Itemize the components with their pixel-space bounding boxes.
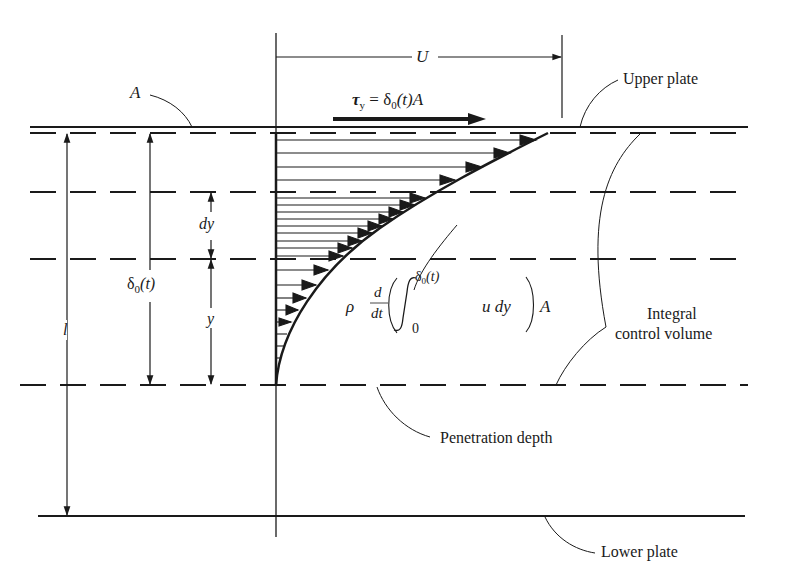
gap-l-label: l bbox=[63, 320, 67, 340]
shear-eq-rest: (t)A bbox=[397, 90, 423, 109]
upper-plate-leader-line bbox=[580, 80, 618, 127]
penetration-depth-leader-line bbox=[377, 387, 430, 437]
delta-rest: (t) bbox=[140, 275, 155, 292]
integral-cv-label-line2: control volume bbox=[615, 326, 712, 342]
integral-lower-limit: 0 bbox=[412, 322, 419, 336]
area-label: A bbox=[130, 84, 140, 101]
integral-upper-rest: (t) bbox=[426, 269, 439, 284]
integral-area-symbol: A bbox=[540, 298, 550, 315]
lower-plate-label: Lower plate bbox=[601, 544, 678, 560]
diagram-canvas bbox=[0, 0, 791, 586]
delta-label: δ0(t) bbox=[127, 276, 155, 295]
integral-cv-label-line1: Integral bbox=[647, 306, 697, 322]
integral-upper-limit: δ0(t) bbox=[415, 270, 439, 286]
lower-plate-leader-line bbox=[545, 517, 595, 553]
upper-plate-label: Upper plate bbox=[623, 71, 698, 87]
rho-symbol: ρ bbox=[346, 298, 354, 315]
dt-denominator: dt bbox=[371, 306, 383, 321]
shear-eq: = δ bbox=[365, 90, 391, 109]
shear-arrow-head-icon bbox=[468, 113, 486, 125]
tau-symbol: τ bbox=[352, 90, 360, 109]
velocity-u-label: U bbox=[416, 48, 428, 65]
integrand: u dy bbox=[482, 298, 511, 315]
penetration-depth-label: Penetration depth bbox=[440, 430, 552, 446]
d-numerator: d bbox=[374, 285, 382, 300]
shear-stress-label: τy = δ0(t)A bbox=[352, 91, 423, 111]
dy-label: dy bbox=[199, 216, 214, 232]
right-paren bbox=[526, 277, 534, 332]
velocity-vectors bbox=[276, 135, 536, 358]
y-label: y bbox=[207, 311, 214, 327]
area-leader-line bbox=[150, 95, 192, 127]
left-paren bbox=[389, 278, 397, 333]
delta-symbol: δ bbox=[127, 275, 135, 292]
integral-upper-delta: δ bbox=[415, 269, 422, 284]
